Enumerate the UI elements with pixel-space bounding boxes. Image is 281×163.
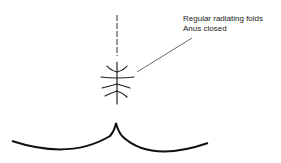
pointer-line (137, 38, 192, 72)
anus-diagram-drawing (0, 0, 281, 163)
label-folds: Regular radiating folds (183, 14, 263, 24)
diagram: Regular radiating folds Anus closed (0, 0, 281, 163)
buttocks-outline (12, 123, 208, 152)
label-anus: Anus closed (183, 24, 227, 34)
radiating-folds (101, 62, 134, 104)
